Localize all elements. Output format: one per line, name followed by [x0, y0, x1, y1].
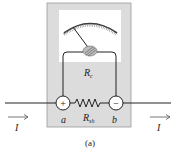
minus-sign: −	[113, 98, 119, 109]
arrow-in-icon	[8, 115, 28, 120]
arrow-out-icon	[150, 115, 170, 120]
current-out-label: I	[156, 122, 161, 133]
current-in-label: I	[14, 122, 19, 133]
terminal-b-label: b	[112, 114, 117, 125]
figure-caption: (a)	[85, 138, 95, 148]
ammeter-diagram: Rc + − a Rsh b I I (a)	[0, 0, 179, 151]
plus-sign: +	[60, 98, 66, 109]
terminal-a-label: a	[61, 114, 66, 125]
